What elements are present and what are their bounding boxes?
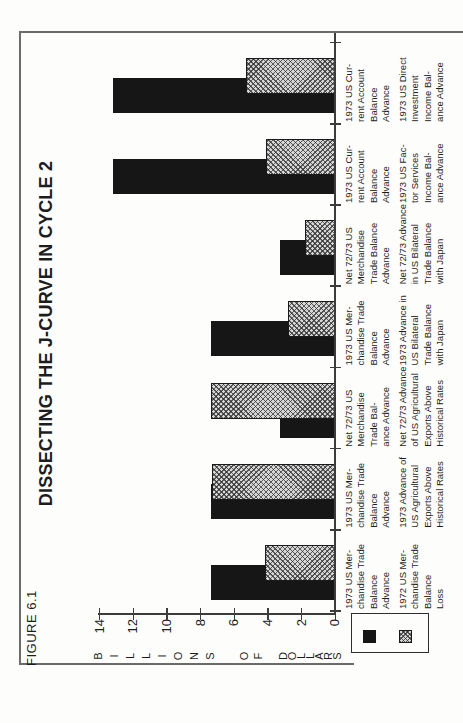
category-tick [330,204,341,206]
axis-unit-letter: I [108,646,120,666]
legend-swatch-solid-black [363,631,376,644]
legend-box [351,613,429,653]
bar-hatched-group2 [212,464,335,500]
category-label-row2-group4: 1973 Advance in US Bilateral Trade Balan… [397,285,447,365]
category-label-row2-group1: 1972 US Mer- chandise Trade Balance Loss [397,529,447,609]
value-tick [234,608,236,620]
bar-hatched-group1 [265,545,336,581]
axis-unit-letter: L [140,646,152,666]
scanned-chart-page: FIGURE 6.1 DISSECTING THE J-CURVE IN CYC… [0,0,463,723]
axis-unit-letter: O [172,646,184,666]
category-label-row1-group3: Net 72/73 US Merchandise Trade Bal- ance… [343,367,393,447]
category-label-row1-group4: 1973 US Mer- chandise Trade Balance Adva… [343,285,393,365]
category-tick [330,367,341,369]
value-tick [267,608,269,620]
axis-unit-letter: S [204,646,216,666]
axis-unit-letter: L [124,646,136,666]
axis-unit-letter: B [92,646,104,666]
frame-right-border [19,32,463,34]
value-tick [99,608,101,620]
legend-swatch-hatched [399,631,412,644]
bar-hatched-group6 [266,139,335,175]
bar-hatched-group7 [246,58,335,94]
value-tick [166,608,168,620]
bar-hatched-group5 [305,220,335,256]
axis-unit-letter: F [252,646,264,666]
category-label-row1-group2: 1973 US Mer- chandise Trade Balance Adva… [343,448,393,528]
bar-hatched-group3 [211,383,336,419]
category-tick [330,42,341,44]
category-label-row2-group2: 1973 Advance of US Agricultural Exports … [397,448,447,528]
category-axis-line [334,33,336,615]
frame-top-border [19,33,21,665]
category-label-row2-group5: Net 72/73 Advance in US Bilateral Trade … [397,204,447,284]
axis-unit-letter: O [238,646,250,666]
chart-title: DISSECTING THE J-CURVE IN CYCLE 2 [36,33,57,665]
category-label-row2-group6: 1973 US Fac- tor Services Income Bal- an… [397,123,447,203]
value-tick [200,608,202,620]
category-tick [330,448,341,450]
axis-unit-letter: N [188,646,200,666]
category-label-row1-group5: Net 72/73 US Merchandise Trade Balance A… [343,204,393,284]
rotated-chart-canvas: FIGURE 6.1 DISSECTING THE J-CURVE IN CYC… [0,0,463,723]
category-tick [330,610,341,612]
axis-unit-letter: I [156,646,168,666]
category-label-row1-group6: 1973 US Cur- rent Account Balance Advanc… [343,123,393,203]
category-label-row2-group3: Net 72/73 Advance of US Agricultural Exp… [397,367,447,447]
axis-unit-letter: S [331,646,343,666]
category-tick [330,286,341,288]
value-tick [133,608,135,620]
category-tick [330,123,341,125]
category-label-row1-group7: 1973 US Cur- rent Account Balance Advanc… [343,42,393,122]
category-label-row1-group1: 1973 US Mer- chandise Trade Balance Adva… [343,529,393,609]
category-label-row2-group7: 1973 US Direct Investment Income Bal- an… [397,42,447,122]
category-tick [330,529,341,531]
value-tick [301,608,303,620]
bar-hatched-group4 [288,301,335,337]
